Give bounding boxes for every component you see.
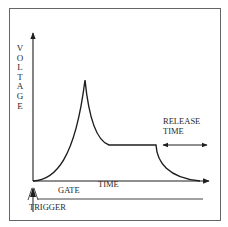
adsr-envelope-diagram: VOLTAGE TIME GATE TRIGGER RELEASE TIME <box>0 0 228 227</box>
x-axis-label: TIME <box>98 180 119 189</box>
y-axis-label: VOLTAGE <box>16 44 24 111</box>
envelope-graphic <box>0 0 228 227</box>
gate-label: GATE <box>58 186 80 195</box>
release-time-label: RELEASE TIME <box>163 116 200 136</box>
trigger-label: TRIGGER <box>29 203 66 212</box>
